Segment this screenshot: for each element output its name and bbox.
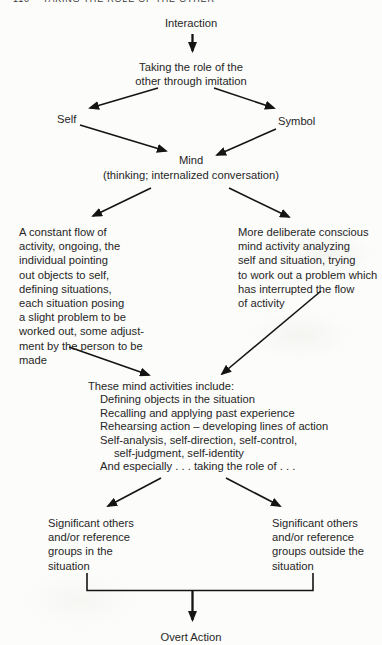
arrow-activities-to-groups-in — [108, 478, 161, 506]
node-mind-subtitle: (thinking; internalized conversation) — [0, 168, 382, 182]
arrow-role-taking-to-self — [90, 88, 158, 108]
node-mind: Mind — [0, 153, 382, 167]
arrow-mind-to-deliberate — [229, 188, 289, 217]
activity-item: Recalling and applying past experience — [100, 407, 328, 420]
arrow-self-to-mind — [80, 125, 166, 151]
node-significant-others-outside: Significant others and/or reference grou… — [272, 516, 364, 573]
arrow-activities-to-groups-outside — [226, 478, 280, 506]
node-role-taking: Taking the role of the other through imi… — [0, 60, 382, 88]
node-constant-flow: A constant flow of activity, ongoing, th… — [19, 225, 144, 367]
arrow-mind-to-constant-flow — [93, 188, 151, 216]
activity-item: Rehearsing action – developing lines of … — [100, 420, 328, 433]
node-interaction: Interaction — [0, 16, 382, 30]
activity-item: And especially . . . taking the role of … — [100, 460, 328, 473]
activity-item: Self-analysis, self-direction, self-cont… — [100, 434, 328, 447]
node-symbol: Symbol — [278, 114, 315, 128]
activity-item: Defining objects in the situation — [100, 393, 328, 406]
activities-title: These mind activities include: — [88, 380, 328, 393]
arrow-symbol-to-mind — [217, 129, 276, 155]
node-significant-others-in: Significant others and/or reference grou… — [48, 516, 134, 573]
arrow-role-taking-to-symbol — [214, 88, 274, 108]
node-deliberate-mind: More deliberate conscious mind activity … — [238, 225, 377, 310]
node-overt-action: Overt Action — [0, 630, 382, 644]
bracket-merge-connector — [87, 573, 313, 591]
activity-item: self-judgment, self-identity — [114, 447, 328, 460]
book-page: 110 TAKING THE ROLE OF THE OTHER Interac… — [0, 0, 382, 645]
node-self: Self — [57, 112, 76, 126]
node-mind-activities: These mind activities include: Defining … — [88, 380, 328, 474]
